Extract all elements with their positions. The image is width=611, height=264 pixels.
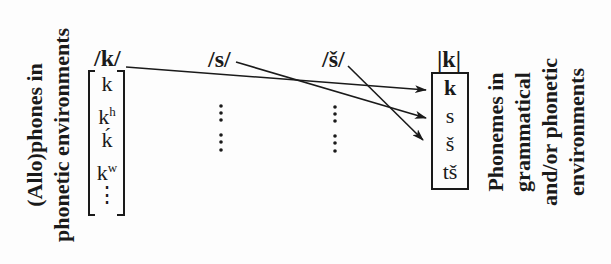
ellipsis-dots bbox=[219, 104, 337, 153]
left-bracket bbox=[89, 71, 124, 215]
arrow-s-to-s bbox=[236, 62, 426, 118]
target-box-border bbox=[432, 73, 468, 189]
diagram-graphics bbox=[0, 0, 611, 264]
arrow-k-to-k bbox=[126, 67, 426, 90]
arrow-sh-to-sh bbox=[348, 66, 423, 140]
